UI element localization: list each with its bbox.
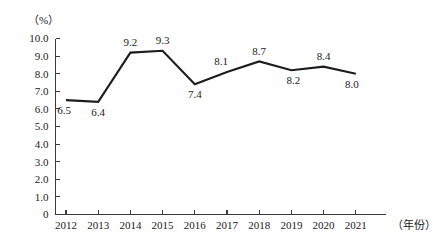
data-point-label: 9.3 — [156, 34, 170, 46]
line-chart: 10.09.08.07.06.05.04.03.02.01.00 2012201… — [0, 0, 447, 241]
x-axis-tick-label: 2017 — [216, 219, 239, 231]
x-axis-tick-label: 2016 — [184, 219, 207, 231]
data-point-label: 8.4 — [317, 50, 331, 62]
x-axis-tick-label: 2013 — [87, 219, 110, 231]
x-axis-tick-label: 2015 — [152, 219, 175, 231]
data-point-label: 8.1 — [214, 55, 228, 67]
y-axis-tick-label: 1.0 — [35, 191, 49, 203]
data-point-label: 7.4 — [188, 88, 202, 100]
y-axis-tick-label: 5.0 — [35, 120, 49, 132]
y-axis-tick-label: 3.0 — [35, 156, 49, 168]
y-axis-unit-label: （%） — [28, 14, 59, 26]
y-axis-tick-label: 10.0 — [29, 32, 49, 44]
x-axis-tick-label: 2012 — [55, 219, 77, 231]
x-axis-unit-label: （年份） — [392, 218, 436, 231]
x-axis-tick-label: 2020 — [313, 219, 336, 231]
data-point-label: 6.4 — [91, 106, 105, 118]
x-axis-tick-group — [66, 210, 356, 215]
data-point-label: 6.5 — [57, 104, 71, 116]
x-axis-tick-label: 2021 — [345, 219, 367, 231]
data-series-line — [66, 51, 356, 102]
y-axis-tick-group — [56, 39, 61, 197]
y-axis-tick-label: 0 — [43, 208, 49, 220]
x-axis-tick-label-group: 2012201320142015201620172018201920202021 — [55, 219, 367, 231]
y-axis-tick-label: 4.0 — [35, 138, 49, 150]
x-axis-tick-label: 2019 — [280, 219, 303, 231]
x-axis-tick-label: 2018 — [248, 219, 271, 231]
data-point-label-group: 6.56.49.29.37.48.18.78.28.48.0 — [57, 34, 359, 118]
y-axis-tick-label-group: 10.09.08.07.06.05.04.03.02.01.00 — [29, 32, 49, 220]
data-point-label: 8.0 — [345, 78, 359, 90]
data-point-label: 9.2 — [124, 36, 138, 48]
y-axis-tick-label: 7.0 — [35, 85, 49, 97]
data-point-label: 8.2 — [287, 74, 301, 86]
y-axis-tick-label: 8.0 — [35, 68, 49, 80]
chart-canvas: 10.09.08.07.06.05.04.03.02.01.00 2012201… — [0, 0, 447, 241]
x-axis-tick-label: 2014 — [119, 219, 142, 231]
y-axis-tick-label: 9.0 — [35, 50, 49, 62]
y-axis-tick-label: 2.0 — [35, 173, 49, 185]
data-point-label: 8.7 — [252, 45, 266, 57]
y-axis-tick-label: 6.0 — [35, 103, 49, 115]
